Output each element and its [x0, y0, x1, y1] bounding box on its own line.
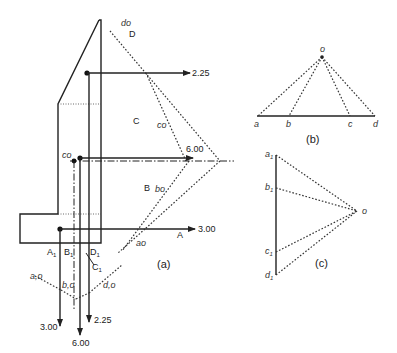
ray-label-co-top: co — [62, 150, 72, 160]
rays-a — [110, 31, 220, 253]
point-a: a — [254, 119, 259, 129]
ray-label-bo: bo — [155, 184, 165, 194]
load-label-3-00: 3.00 — [198, 224, 216, 234]
svg-text:a1: a1 — [265, 149, 273, 160]
figure-b: o a b c d (b) — [254, 44, 379, 145]
force-diagram-canvas: 2.25 6.00 3.00 A 3.00 6.00 2.25 A1 B1 C1 — [0, 0, 397, 353]
svg-text:c1: c1 — [265, 246, 273, 257]
svg-text:C1: C1 — [92, 262, 103, 273]
funicular-label-ao: a,o — [30, 271, 43, 281]
region-label-c: C — [133, 116, 140, 126]
region-label-b: B — [144, 183, 150, 193]
svg-text:b1: b1 — [265, 182, 273, 193]
region-label-a: A — [177, 230, 183, 240]
vertical-label-3-00: 3.00 — [40, 322, 58, 332]
region-label-d: D — [129, 29, 136, 39]
pole-label-b: o — [320, 44, 325, 54]
svg-text:B1: B1 — [64, 247, 74, 258]
figure-a: 2.25 6.00 3.00 A 3.00 6.00 2.25 A1 B1 C1 — [20, 18, 234, 348]
funicular-label-do: d,o — [103, 280, 116, 290]
line-labels: A1 B1 C1 D1 — [47, 247, 103, 273]
svg-text:A1: A1 — [47, 247, 57, 258]
funicular-label-bo: b,o — [62, 280, 75, 290]
point-d: d — [373, 119, 379, 129]
caption-a: (a) — [157, 258, 170, 270]
ray-label-co: co — [157, 120, 167, 130]
svg-text:d1: d1 — [265, 270, 273, 281]
ray-label-do: do — [121, 18, 131, 28]
vertical-label-2-25: 2.25 — [94, 315, 112, 325]
svg-text:D1: D1 — [90, 247, 101, 258]
load-arrow-c-horizontal: 6.00 — [77, 144, 203, 161]
caption-c: (c) — [315, 257, 328, 269]
point-b: b — [286, 119, 291, 129]
caption-b: (b) — [306, 133, 319, 145]
figure-c: o a1 b1 c1 d1 (c) — [265, 149, 367, 281]
point-c: c — [348, 119, 353, 129]
load-label-2-25: 2.25 — [192, 68, 210, 78]
ray-label-ao: ao — [136, 238, 146, 248]
pole-label-c: o — [362, 206, 367, 216]
load-label-6-00: 6.00 — [186, 144, 204, 154]
vertical-label-6-00: 6.00 — [72, 338, 90, 348]
